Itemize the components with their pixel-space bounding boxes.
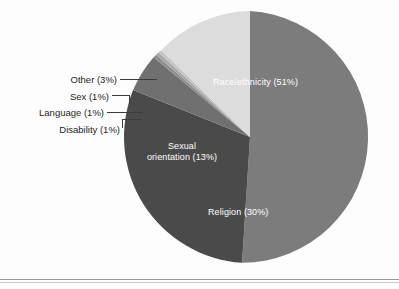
slice-label-religion: Religion (30%) [208,207,268,218]
callout-label-sex: Sex (1%) [0,91,109,102]
leader-line-disability-elbow [122,119,123,128]
pie-chart-figure: Race/ethnicity (51%) Religion (30%) Sexu… [0,0,399,289]
leader-line-sex [112,95,129,96]
callout-label-other: Other (3%) [0,74,117,85]
slice-label-sexual-orientation: Sexual orientation (13%) [139,141,225,163]
slice-label-sexual-orientation-line2: orientation (13%) [139,152,225,163]
callout-label-language: Language (1%) [0,107,104,118]
leader-line-language [107,112,143,113]
slice-label-sexual-orientation-line1: Sexual [139,141,225,152]
callout-label-disability: Disability (1%) [0,124,120,135]
footer-divider [0,279,399,280]
slice-label-race-ethnicity: Race/ethnicity (51%) [213,77,298,88]
leader-line-sex-elbow [129,95,130,104]
leader-line-disability [122,119,141,120]
leader-line-other [120,79,157,80]
footer-divider-secondary [0,282,399,283]
pie-slice-race-ethnicity[interactable] [242,11,368,263]
